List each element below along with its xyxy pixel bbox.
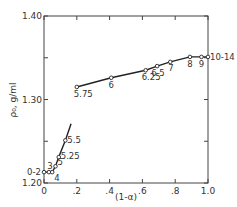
data-point — [42, 170, 46, 174]
x-tick-label: .2 — [73, 186, 82, 196]
x-tick-label: 1.0 — [201, 186, 216, 196]
y-tick-label: 1.40 — [22, 11, 42, 21]
point-label: 4 — [54, 173, 59, 183]
point-label: 5.5 — [67, 135, 81, 145]
y-axis-title: ρ₀, g/ml — [8, 82, 18, 117]
point-label: 7 — [168, 63, 173, 73]
x-axis-title: (1-α) — [115, 192, 137, 202]
y-tick-label: 1.20 — [22, 178, 42, 188]
x-tick-label: .8 — [171, 186, 180, 196]
point-label: 10-14 — [210, 52, 235, 62]
x-tick-label: .6 — [138, 186, 147, 196]
point-label: 0-2 — [27, 167, 41, 177]
point-label: 6 — [109, 80, 114, 90]
plot-area: 0-23455.255.55.7566.256.578910-14 — [27, 52, 235, 183]
point-label: 5.25 — [61, 151, 80, 161]
density-chart: 0.2.4.6.81.01.201.301.40 0-23455.255.55.… — [0, 0, 237, 207]
point-label: 8 — [187, 59, 192, 69]
x-tick-label: 0 — [41, 186, 47, 196]
point-label: 9 — [199, 59, 204, 69]
y-tick-label: 1.30 — [22, 95, 42, 105]
point-label: 6.5 — [151, 68, 165, 78]
point-label: 3 — [47, 161, 52, 171]
point-label: 5.75 — [74, 89, 93, 99]
x-tick-label: .4 — [105, 186, 114, 196]
